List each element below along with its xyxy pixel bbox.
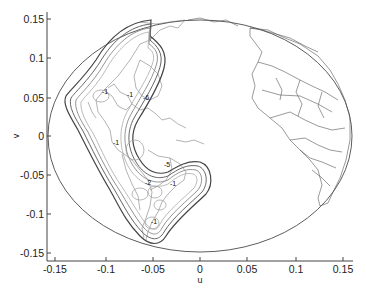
- y-tick-label: 0.15: [24, 13, 45, 25]
- contour-label: -2: [145, 179, 151, 186]
- x-tick-label: -0.1: [97, 263, 115, 275]
- contour-label: -1: [170, 180, 176, 187]
- contour-label: -5: [164, 161, 170, 168]
- x-axis-label: u: [197, 275, 202, 285]
- x-tick-labels: -0.15 -0.1 -0.05 0 0.05 0.1 0.15: [43, 263, 353, 275]
- contour-label: -6: [143, 94, 149, 101]
- x-tick-label: 0.1: [289, 263, 304, 275]
- contour-lines: [65, 20, 211, 244]
- x-tick-label: 0.15: [333, 263, 354, 275]
- x-tick-label: -0.05: [141, 263, 165, 275]
- contour-label: -1: [151, 218, 157, 225]
- axes: [47, 12, 353, 261]
- x-tick-label: 0: [197, 263, 203, 275]
- y-tick-label: -0.05: [20, 169, 44, 181]
- y-tick-label: -0.1: [26, 208, 44, 220]
- y-tick-label: -0.15: [20, 247, 44, 259]
- x-tick-label: 0.05: [237, 263, 258, 275]
- earth-disk: [48, 20, 352, 252]
- contour-label: -1: [113, 139, 119, 146]
- y-tick-labels: 0.15 0.1 0.05 0 -0.05 -0.1 -0.15: [20, 13, 44, 259]
- y-tick-label: 0.1: [29, 52, 44, 64]
- chart-canvas: -1 -1 -6 -1 -5 -2 -1 -1 -0.15 -0.1 -0.05…: [0, 0, 366, 291]
- contour-label: -1: [102, 88, 108, 95]
- y-tick-label: 0.05: [24, 92, 45, 104]
- x-tick-label: -0.15: [43, 263, 67, 275]
- y-axis-label: v: [11, 133, 21, 138]
- y-tick-label: 0: [38, 130, 44, 142]
- continent-outlines-east: [188, 18, 350, 206]
- contour-label: -1: [127, 91, 133, 98]
